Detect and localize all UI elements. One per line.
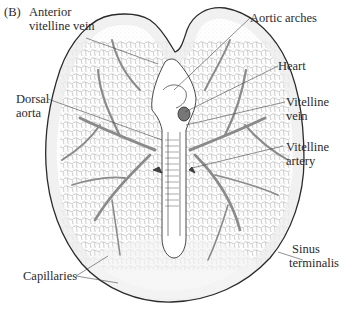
label-vitelline-vein-line1: Vitelline [286, 96, 329, 109]
label-aortic-arches: Aortic arches [250, 12, 317, 25]
panel-label: (B) [4, 6, 21, 19]
label-dorsal-aorta-line2: aorta [16, 107, 41, 120]
label-vitelline-artery-line1: Vitelline [286, 141, 329, 154]
label-anterior-vitelline-vein-line1: Anterior [29, 6, 71, 19]
label-vitelline-artery-line2: artery [286, 155, 315, 168]
label-anterior-vitelline-vein-line2: vitelline vein [29, 20, 95, 33]
label-heart: Heart [278, 60, 306, 73]
label-sinus-terminalis-line1: Sinus [292, 243, 320, 256]
label-vitelline-vein-line2: vein [286, 110, 308, 123]
heart-shape [178, 107, 190, 121]
label-dorsal-aorta-line1: Dorsal [16, 93, 49, 106]
label-capillaries: Capillaries [23, 270, 77, 283]
label-sinus-terminalis-line2: terminalis [289, 257, 339, 270]
